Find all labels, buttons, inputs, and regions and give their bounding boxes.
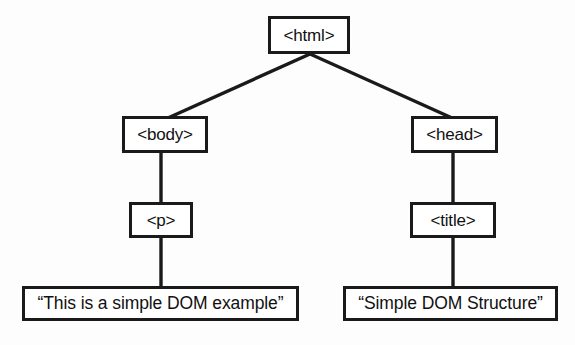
node-title[interactable]: <title> (410, 202, 496, 238)
node-p-label: <p> (147, 212, 176, 229)
node-text-paragraph-label: “This is a simple DOM example” (38, 295, 284, 313)
node-head-label: <head> (426, 126, 482, 143)
node-html[interactable]: <html> (268, 16, 350, 54)
node-text-paragraph[interactable]: “This is a simple DOM example” (22, 286, 299, 321)
dom-tree-diagram: <html> <body> <head> <p> <title> “This i… (0, 0, 575, 345)
node-body-label: <body> (137, 126, 193, 143)
node-title-label: <title> (431, 212, 476, 229)
edge-html-head (310, 54, 450, 117)
node-text-title[interactable]: “Simple DOM Structure” (343, 286, 558, 321)
node-p[interactable]: <p> (129, 202, 193, 238)
node-body[interactable]: <body> (122, 116, 208, 153)
node-head[interactable]: <head> (411, 116, 498, 153)
edge-html-body (170, 54, 310, 117)
node-text-title-label: “Simple DOM Structure” (358, 295, 543, 313)
node-html-label: <html> (284, 27, 335, 44)
